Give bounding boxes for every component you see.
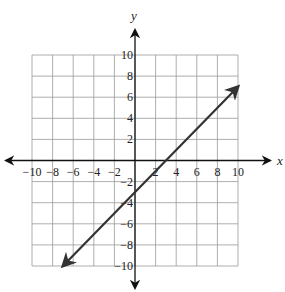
y-tick-label: 8 xyxy=(127,69,133,83)
x-tick-label: 10 xyxy=(232,165,244,179)
y-tick-label: 4 xyxy=(127,111,133,125)
y-tick-label: −6 xyxy=(120,217,133,231)
y-tick-label: −10 xyxy=(114,259,133,273)
y-tick-label: −2 xyxy=(120,175,133,189)
y-tick-label: −8 xyxy=(120,238,133,252)
x-tick-label: −8 xyxy=(46,165,59,179)
x-tick-label: −4 xyxy=(87,165,100,179)
x-tick-label: 6 xyxy=(194,165,200,179)
y-tick-label: 2 xyxy=(127,132,133,146)
x-tick-label: −2 xyxy=(108,165,121,179)
y-tick-label: 6 xyxy=(127,90,133,104)
x-axis-label: x xyxy=(276,153,283,168)
axes xyxy=(6,30,270,288)
y-tick-label: −4 xyxy=(120,196,133,210)
x-tick-label: −6 xyxy=(67,165,80,179)
x-tick-label: 4 xyxy=(173,165,179,179)
y-axis-label: y xyxy=(129,8,137,23)
x-tick-label: 8 xyxy=(214,165,220,179)
y-tick-label: 10 xyxy=(121,48,133,62)
x-tick-label: −10 xyxy=(23,165,42,179)
coordinate-plane: −10−8−6−4−2246810108642−2−4−6−8−10 x y xyxy=(0,0,285,292)
